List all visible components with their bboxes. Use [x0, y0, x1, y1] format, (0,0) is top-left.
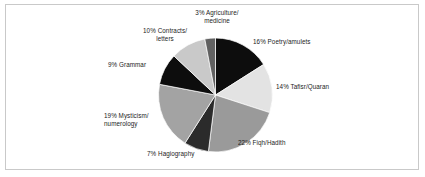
pie-label-contracts-letters: 10% Contracts/ letters: [133, 27, 197, 43]
pie-label-poetry-amulets: 16% Poetry/amulets: [253, 38, 343, 46]
pie-label-mysticism-numerology: 19% Mysticism/ numerology: [104, 112, 176, 128]
pie-label-hagiography: 7% Hagiography: [147, 150, 229, 158]
pie-chart-figure: 3% Agriculture/ medicine 16% Poetry/amul…: [0, 0, 425, 177]
chart-plot-area: 3% Agriculture/ medicine 16% Poetry/amul…: [0, 0, 425, 177]
pie-label-grammar: 9% Grammar: [108, 61, 170, 69]
pie-label-agriculture-medicine: 3% Agriculture/ medicine: [186, 9, 248, 25]
pie-label-fiqh-hadith: 22% Fiqh/Hadith: [238, 139, 323, 147]
pie-slices-group: [159, 38, 273, 152]
pie-label-tafsir-quaran: 14% Tafisr/Quaran: [276, 83, 366, 91]
